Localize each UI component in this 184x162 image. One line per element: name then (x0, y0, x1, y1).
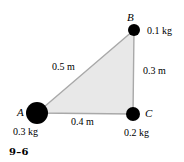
vertex-label-b: B (127, 12, 134, 23)
triangle-shape (37, 30, 134, 114)
mass-marker-B (128, 24, 140, 36)
dimension-label-bc: 0.3 m (143, 66, 166, 76)
mass-label-b: 0.1 kg (147, 26, 172, 36)
figure-caption: 9–6 (9, 146, 29, 157)
vertex-label-a: A (17, 107, 24, 118)
dimension-label-ac: 0.4 m (71, 117, 94, 127)
mass-marker-A (26, 102, 48, 124)
physics-figure: B 0.1 kg A 0.3 kg C 0.2 kg 0.5 m 0.3 m 0… (0, 0, 184, 162)
mass-label-a: 0.3 kg (13, 127, 38, 137)
mass-marker-C (126, 107, 140, 121)
dimension-label-ab: 0.5 m (52, 62, 75, 72)
mass-label-c: 0.2 kg (124, 128, 149, 138)
vertex-label-c: C (145, 108, 153, 119)
